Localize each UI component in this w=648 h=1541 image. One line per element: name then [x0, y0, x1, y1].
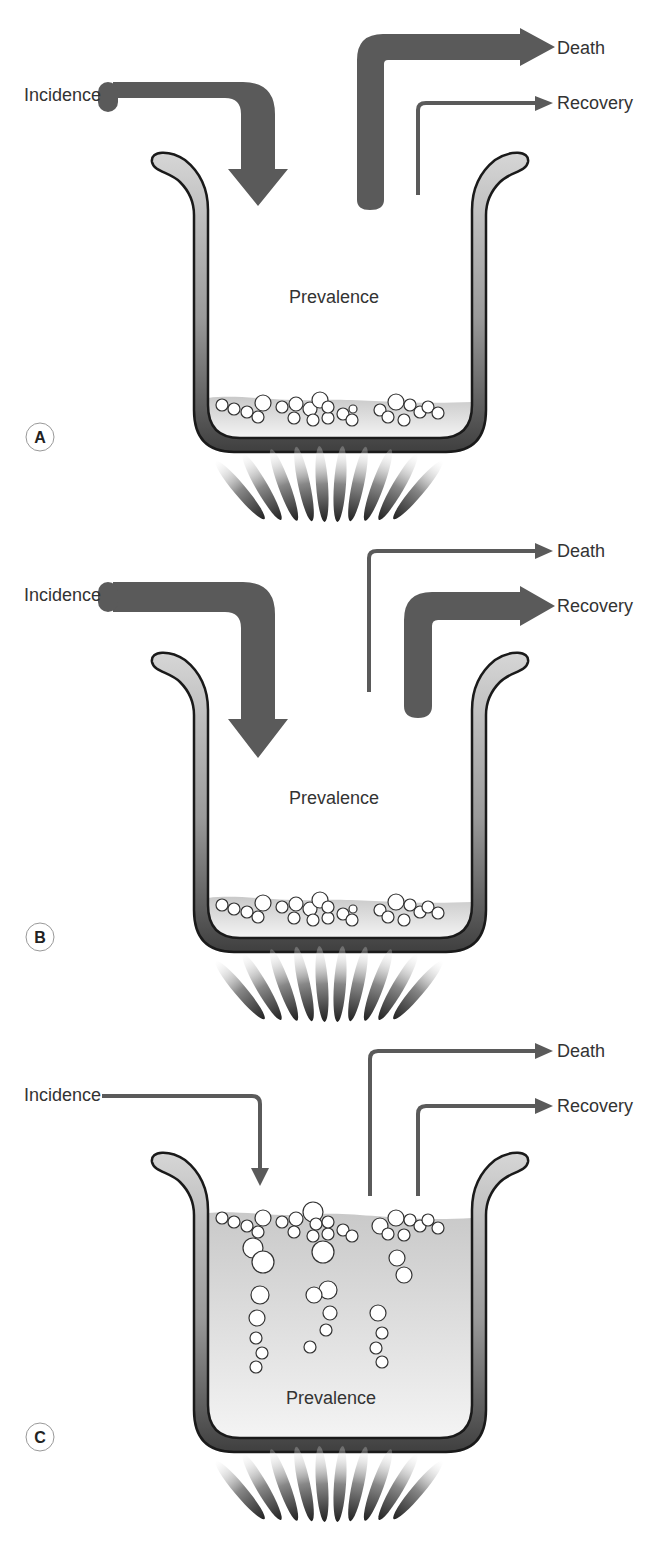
- death-label: Death: [557, 541, 605, 561]
- death-arrowhead: [535, 543, 553, 559]
- recovery-label: Recovery: [557, 93, 633, 113]
- death-label: Death: [557, 38, 605, 58]
- panel-letter: B: [34, 929, 46, 946]
- prevalence-label: Prevalence: [289, 788, 379, 808]
- flames: [211, 1446, 447, 1523]
- prevalence-label: Prevalence: [286, 1388, 376, 1408]
- recovery-arrowhead: [535, 96, 553, 111]
- death-label: Death: [557, 1041, 605, 1061]
- flames: [211, 946, 447, 1023]
- incidence-label: Incidence: [24, 85, 101, 105]
- prevalence-diagram: Incidence Death Recovery Prevalence A In…: [0, 0, 648, 1541]
- panel-letter: C: [34, 1429, 46, 1446]
- panel-a: Incidence Death Recovery Prevalence A: [24, 28, 633, 523]
- death-arrow: [357, 28, 555, 210]
- recovery-arrowhead: [535, 1098, 553, 1114]
- incidence-label: Incidence: [24, 585, 101, 605]
- panel-b: Incidence Death Recovery Prevalence B: [24, 541, 633, 1023]
- flames: [211, 446, 447, 523]
- incidence-label: Incidence: [24, 1085, 101, 1105]
- incidence-arrowhead: [251, 1168, 269, 1186]
- panel-letter: A: [34, 429, 46, 446]
- recovery-label: Recovery: [557, 1096, 633, 1116]
- panel-c: Incidence Death Recovery Prevalence C: [24, 1041, 633, 1523]
- prevalence-label: Prevalence: [289, 287, 379, 307]
- recovery-label: Recovery: [557, 596, 633, 616]
- death-arrowhead: [535, 1043, 553, 1059]
